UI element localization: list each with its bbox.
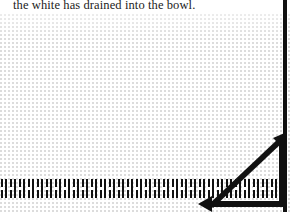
hatch-mark	[153, 179, 161, 198]
hatch-mark	[180, 179, 188, 198]
hatch-mark	[171, 179, 179, 198]
hatch-mark-gap	[28, 187, 35, 190]
hatch-mark-gap	[37, 187, 44, 190]
hatch-mark-gap	[271, 187, 278, 190]
hatch-mark	[135, 179, 143, 198]
hatch-mark-gap	[190, 187, 197, 190]
hatch-mark-gap	[199, 187, 206, 190]
hatch-mark	[99, 179, 107, 198]
hatch-mark-gap	[154, 187, 161, 190]
hatch-mark	[90, 179, 98, 198]
caption-text: the white has drained into the bowl.	[13, 0, 275, 14]
hatch-mark-gap	[100, 187, 107, 190]
hatch-mark	[54, 179, 62, 198]
hatch-mark-gap	[82, 187, 89, 190]
hatch-mark-gap	[262, 187, 269, 190]
hatch-mark-gap	[163, 187, 170, 190]
hatch-mark	[81, 179, 89, 198]
hatch-mark-gap	[73, 187, 80, 190]
hatch-mark	[45, 179, 53, 198]
hatch-mark	[162, 179, 170, 198]
hatch-mark	[252, 179, 260, 198]
hatch-mark-gap	[127, 187, 134, 190]
hatch-mark	[261, 179, 269, 198]
hatch-mark-gap	[253, 187, 260, 190]
hatch-mark	[63, 179, 71, 198]
hatch-mark-gap	[55, 187, 62, 190]
hatch-mark	[144, 179, 152, 198]
hatch-mark-gap	[1, 187, 8, 190]
hatch-mark	[189, 179, 197, 198]
hatch-mark	[27, 179, 35, 198]
hatch-mark-gap	[64, 187, 71, 190]
hatch-mark	[207, 179, 215, 198]
hatch-mark-row	[0, 179, 278, 198]
hatch-mark	[225, 179, 233, 198]
hatch-mark-gap	[136, 187, 143, 190]
hatch-mark	[243, 179, 251, 198]
hatch-mark-gap	[235, 187, 242, 190]
hatch-mark	[18, 179, 26, 198]
hatch-mark	[36, 179, 44, 198]
hatch-mark	[9, 179, 17, 198]
hatch-mark-gap	[46, 187, 53, 190]
hatch-mark-gap	[172, 187, 179, 190]
hatch-mark-gap	[118, 187, 125, 190]
hatch-mark-gap	[181, 187, 188, 190]
hatch-mark	[270, 179, 278, 198]
hatch-mark-gap	[10, 187, 17, 190]
hatch-mark	[117, 179, 125, 198]
hatch-mark-gap	[19, 187, 26, 190]
hatch-mark-gap	[208, 187, 215, 190]
hatch-mark	[126, 179, 134, 198]
hatch-mark-gap	[109, 187, 116, 190]
hatch-mark	[234, 179, 242, 198]
hatch-mark	[0, 179, 8, 198]
scanned-page: the white has drained into the bowl.	[0, 0, 291, 212]
hatch-mark	[108, 179, 116, 198]
vertical-rule	[283, 0, 287, 212]
hatch-mark	[216, 179, 224, 198]
hatch-mark-gap	[145, 187, 152, 190]
hatch-mark-gap	[91, 187, 98, 190]
hatch-mark	[72, 179, 80, 198]
hatch-mark	[198, 179, 206, 198]
hatch-mark-gap	[226, 187, 233, 190]
hatch-mark-gap	[217, 187, 224, 190]
hatch-mark-gap	[244, 187, 251, 190]
